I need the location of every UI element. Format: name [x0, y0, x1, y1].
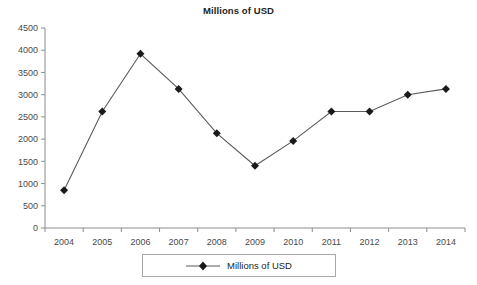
data-point-marker [60, 186, 68, 194]
x-tick-label: 2012 [360, 237, 380, 247]
legend-marker-icon [186, 260, 220, 272]
x-tick-label: 2009 [245, 237, 265, 247]
x-tick-label: 2006 [130, 237, 150, 247]
y-tick-label: 3000 [18, 90, 38, 100]
y-tick-label: 4500 [18, 23, 38, 33]
y-tick-label: 1500 [18, 157, 38, 167]
plot-area: 050010001500200025003000350040004500 200… [0, 0, 477, 285]
chart-legend: Millions of USD [142, 254, 336, 277]
x-tick-label: 2010 [283, 237, 303, 247]
x-tick-label: 2004 [54, 237, 74, 247]
y-tick-label: 1000 [18, 179, 38, 189]
x-tick-label: 2007 [169, 237, 189, 247]
y-tick-label: 0 [33, 223, 38, 233]
data-point-marker [366, 108, 374, 116]
y-tick-label: 500 [23, 201, 38, 211]
x-tick-label: 2011 [322, 237, 341, 247]
y-tick-label: 2000 [18, 134, 38, 144]
x-axis: 2004200520062007200820092010201120122013… [45, 228, 465, 247]
y-tick-label: 4000 [18, 45, 38, 55]
x-tick-label: 2008 [207, 237, 227, 247]
legend-label: Millions of USD [227, 261, 292, 271]
y-axis: 050010001500200025003000350040004500 [18, 23, 45, 233]
x-tick-label: 2013 [398, 237, 418, 247]
data-point-marker [442, 85, 450, 93]
data-point-marker [404, 91, 412, 99]
chart-container: Millions of USD 050010001500200025003000… [0, 0, 477, 285]
x-tick-label: 2014 [436, 237, 456, 247]
y-tick-label: 2500 [18, 112, 38, 122]
y-tick-label: 3500 [18, 68, 38, 78]
data-series-millions-of-usd [60, 50, 450, 194]
x-tick-label: 2005 [92, 237, 112, 247]
data-point-marker [98, 108, 106, 116]
